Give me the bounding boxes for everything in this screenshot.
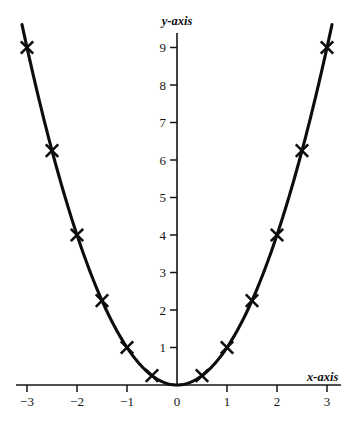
data-point-marker	[221, 341, 233, 353]
parabola-chart: −3−2−10123 123456789 x-axis y-axis	[0, 0, 347, 425]
x-axis-group: −3−2−10123	[16, 385, 341, 409]
data-point-marker	[146, 369, 158, 381]
y-axis-ticks	[170, 48, 177, 348]
x-tick-label: −2	[70, 394, 84, 409]
data-point-marker	[246, 294, 258, 306]
y-axis-tick-labels: 123456789	[160, 40, 167, 355]
y-tick-label: 9	[160, 40, 167, 55]
y-axis-group: 123456789	[160, 33, 178, 385]
y-tick-label: 1	[160, 340, 167, 355]
y-tick-label: 2	[160, 303, 167, 318]
x-axis-tick-labels: −3−2−10123	[20, 394, 330, 409]
data-point-marker	[96, 294, 108, 306]
data-point-marker	[196, 369, 208, 381]
y-tick-label: 3	[160, 265, 167, 280]
x-tick-label: −3	[20, 394, 34, 409]
x-tick-label: 0	[174, 394, 181, 409]
x-tick-label: 1	[224, 394, 231, 409]
x-tick-label: 3	[324, 394, 331, 409]
y-tick-label: 5	[160, 190, 167, 205]
y-tick-label: 7	[160, 115, 167, 130]
y-tick-label: 6	[160, 153, 167, 168]
y-axis-title: y-axis	[160, 14, 193, 28]
y-tick-label: 4	[160, 228, 167, 243]
x-tick-label: −1	[120, 394, 134, 409]
x-axis-title: x-axis	[306, 370, 338, 384]
y-tick-label: 8	[160, 78, 167, 93]
data-point-marker	[121, 341, 133, 353]
chart-canvas: −3−2−10123 123456789 x-axis y-axis	[0, 0, 347, 425]
x-tick-label: 2	[274, 394, 281, 409]
